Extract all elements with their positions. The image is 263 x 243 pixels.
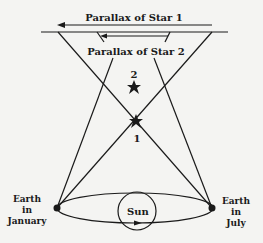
star-2-icon xyxy=(127,80,141,94)
parallax-star2-arrow xyxy=(100,34,168,39)
star2-number: 2 xyxy=(131,69,138,80)
svg-text:July: July xyxy=(225,218,246,228)
svg-text:Earth: Earth xyxy=(13,194,42,204)
earth-july-dot xyxy=(209,205,216,212)
sun-label: Sun xyxy=(127,206,149,217)
svg-text:January: January xyxy=(7,216,48,226)
svg-text:Earth: Earth xyxy=(222,196,251,206)
earth-july-label: Earth in July xyxy=(222,196,251,228)
orbit-direction-arrow xyxy=(134,221,142,226)
svg-text:in: in xyxy=(231,207,241,217)
svg-text:in: in xyxy=(22,205,32,215)
star1-number: 1 xyxy=(134,133,141,144)
parallax-diagram: Parallax of Star 1 Parallax of Star 2 2 … xyxy=(0,0,263,243)
earth-january-label: Earth in January xyxy=(7,194,48,226)
parallax-star1-label: Parallax of Star 1 xyxy=(85,12,182,23)
parallax-star2-label: Parallax of Star 2 xyxy=(87,46,185,57)
earth-january-dot xyxy=(54,205,61,212)
